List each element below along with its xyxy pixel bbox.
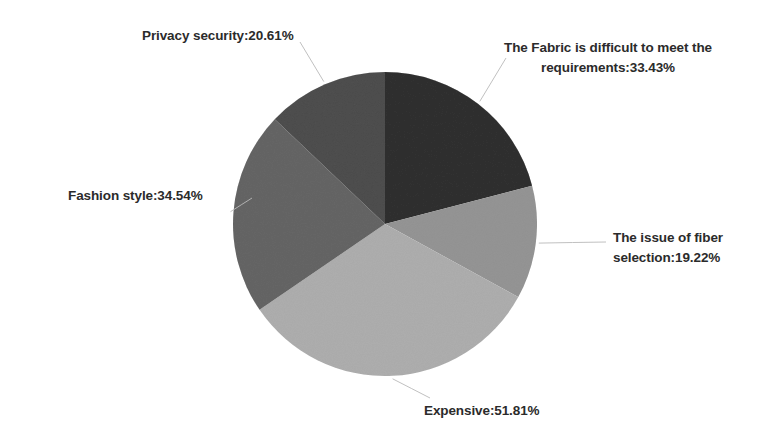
leader-line-fiber — [539, 242, 606, 243]
pie-label-fiber: The issue of fiber selection:19.22% — [613, 228, 763, 267]
pie-chart: The Fabric is difficult to meet the requ… — [0, 0, 784, 441]
pie-label-fabric: The Fabric is difficult to meet the requ… — [496, 38, 720, 77]
pie-label-expensive: Expensive:51.81% — [424, 401, 614, 421]
leader-line-privacy — [300, 42, 324, 82]
pie-label-fashion: Fashion style:34.54% — [68, 186, 248, 206]
pie-slices — [233, 72, 537, 376]
leader-line-expensive — [393, 379, 430, 398]
pie-label-privacy: Privacy security:20.61% — [142, 26, 342, 46]
